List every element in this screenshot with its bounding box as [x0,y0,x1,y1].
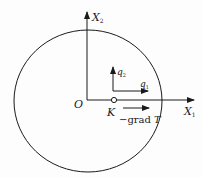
heat-flux-diagram: X2 X1 O K q2 q1 −grad T [0,0,203,177]
diagram-canvas: X2 X1 O K q2 q1 −grad T [0,0,203,177]
point-k-label: K [106,106,116,119]
point-k-marker [111,97,116,102]
q2-label: q2 [117,67,126,78]
neg-grad-t-label: −grad T [119,114,162,125]
x1-axis-label: X1 [183,105,196,118]
domain-boundary-circle [14,30,162,172]
q1-label: q1 [140,79,149,90]
origin-label: O [74,98,83,111]
x2-axis-label: X2 [91,11,104,24]
